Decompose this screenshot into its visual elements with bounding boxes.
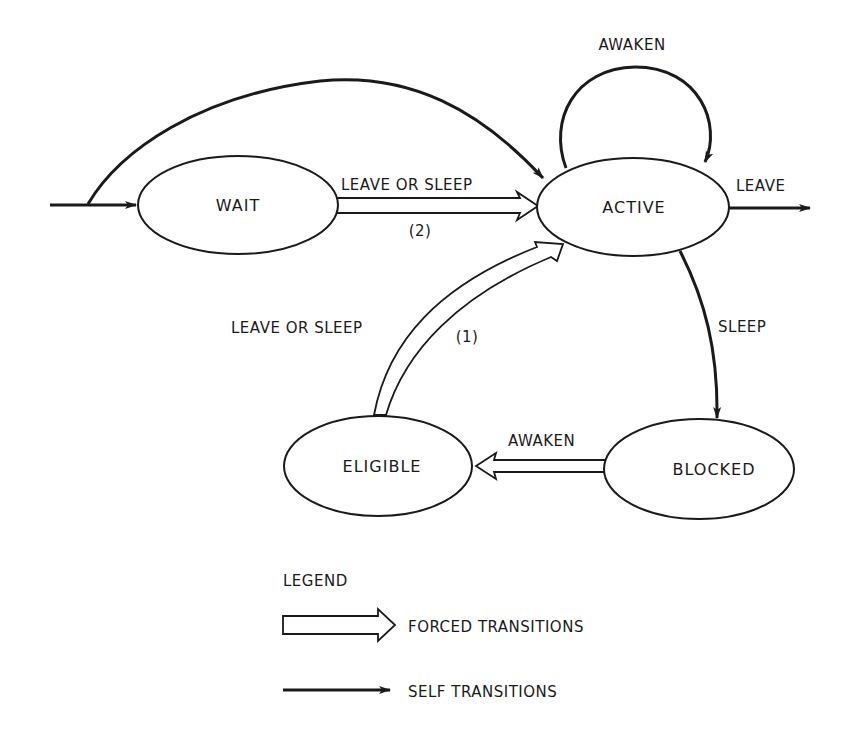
label-eligible-to-active-note: (1) [456,328,479,346]
state-wait-label: WAIT [216,196,260,215]
blocked-to-eligible-forced-arrow [476,453,621,479]
state-wait: WAIT [138,156,338,254]
label-wait-to-active-note: (2) [409,222,432,240]
label-wait-to-active: LEAVE OR SLEEP [341,176,473,194]
label-active-self-awaken: AWAKEN [598,36,665,54]
legend-forced-label: FORCED TRANSITIONS [408,618,584,636]
legend-self-label: SELF TRANSITIONS [408,683,557,701]
state-eligible: ELIGIBLE [284,416,472,516]
active-self-loop-arrow [560,67,710,168]
state-blocked-label: BLOCKED [672,460,755,479]
active-to-blocked-arrow [680,251,717,418]
legend-forced-arrow-icon [283,609,395,641]
label-active-leave: LEAVE [736,177,785,195]
state-active-label: ACTIVE [602,198,665,217]
state-blocked: BLOCKED [604,419,794,519]
state-diagram: WAIT ACTIVE ELIGIBLE BLOCKED AWAKEN LEAV… [0,0,849,750]
label-active-to-blocked: SLEEP [718,318,766,336]
legend: LEGEND FORCED TRANSITIONS SELF TRANSITIO… [283,572,584,701]
wait-to-active-forced-arrow [337,192,538,220]
label-eligible-to-active: LEAVE OR SLEEP [231,319,363,337]
state-active: ACTIVE [537,158,729,256]
state-eligible-label: ELIGIBLE [343,457,422,476]
legend-title: LEGEND [283,572,348,590]
label-blocked-to-eligible: AWAKEN [508,432,575,450]
